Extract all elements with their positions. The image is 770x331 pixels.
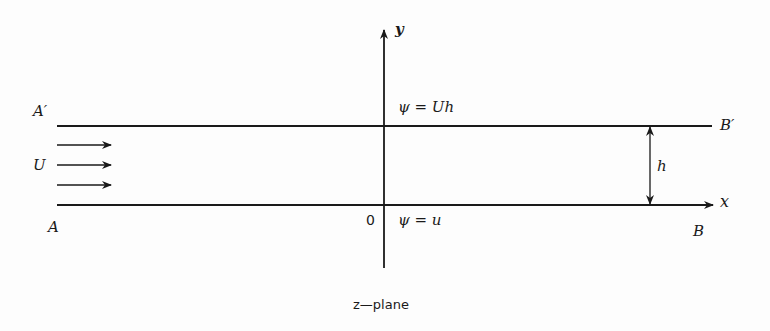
upper-streamline-label: ψ = Uh [398,98,454,116]
z-plane-diagram [0,0,770,331]
channel-height-label: h [657,157,667,175]
upper-right-wall-label: B′ [720,116,734,134]
lower-left-wall-label: A [48,218,59,236]
lower-streamline-label: ψ = u [398,211,442,229]
y-axis-label: y [395,20,404,38]
velocity-label: U [33,156,46,174]
origin-label: 0 [366,212,375,228]
x-axis-label: x [720,192,729,211]
lower-right-wall-label: B [693,222,704,240]
diagram-caption: z—plane [353,297,409,312]
upper-left-wall-label: A′ [33,102,47,120]
